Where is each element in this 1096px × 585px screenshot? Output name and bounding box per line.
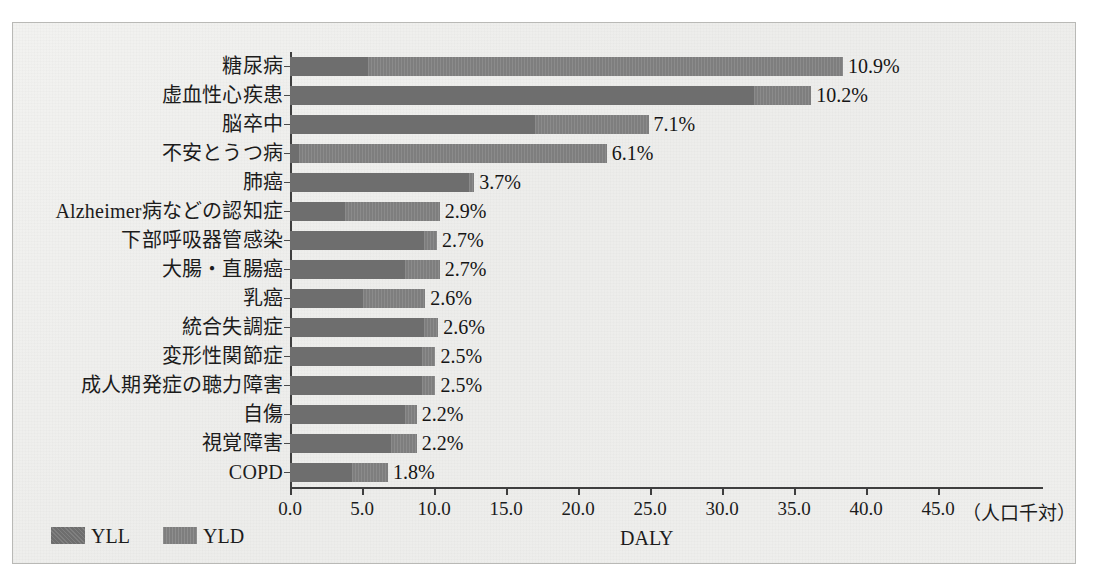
bar-segment-yld: [424, 318, 438, 337]
x-axis-tick: [722, 488, 724, 495]
legend-label: YLD: [203, 525, 244, 548]
category-label: 不安とうつ病: [162, 139, 283, 168]
bar-segment-yld: [391, 434, 417, 453]
bar-value-label: 2.5%: [440, 342, 482, 371]
bar-segment-yll: [290, 289, 363, 308]
x-axis-tick: [866, 488, 868, 495]
bar-value-label: 1.8%: [393, 458, 435, 487]
bar-value-label: 2.2%: [422, 400, 464, 429]
category-label: 統合失調症: [182, 313, 283, 342]
bar-value-label: 2.6%: [443, 313, 485, 342]
x-axis-tick-label: 40.0: [836, 498, 896, 520]
stacked-bar: [290, 376, 435, 395]
bar-value-label: 2.2%: [422, 429, 464, 458]
stacked-bar: [290, 463, 388, 482]
category-label: Alzheimer病などの認知症: [55, 197, 283, 226]
stacked-bar: [290, 202, 440, 221]
stacked-bar: [290, 57, 843, 76]
x-axis-tick: [578, 488, 580, 495]
bar-segment-yld: [368, 57, 843, 76]
legend-swatch-yll: [51, 527, 85, 544]
stacked-bar: [290, 115, 649, 134]
x-axis-tick-label: 30.0: [692, 498, 752, 520]
x-axis-tick-label: 25.0: [620, 498, 680, 520]
x-axis-tick: [650, 488, 652, 495]
legend-swatch-yld: [163, 527, 197, 544]
category-label: 成人期発症の聴力障害: [81, 371, 283, 400]
x-axis-tick: [290, 488, 292, 495]
chart-row: COPD1.8%: [13, 458, 1077, 487]
legend-item-yll[interactable]: YLL: [51, 525, 161, 549]
x-axis-tick-label: 45.0: [908, 498, 968, 520]
category-label: 脳卒中: [222, 110, 283, 139]
category-label: 下部呼吸器管感染: [121, 226, 283, 255]
bar-segment-yll: [290, 202, 345, 221]
bar-segment-yld: [363, 289, 425, 308]
bar-segment-yld: [424, 231, 437, 250]
x-axis-tick: [434, 488, 436, 495]
bar-segment-yld: [405, 405, 417, 424]
legend-item-yld[interactable]: YLD: [163, 525, 273, 549]
stacked-bar: [290, 347, 435, 366]
category-label: 糖尿病: [222, 52, 283, 81]
bar-segment-yll: [290, 57, 368, 76]
chart-row: 変形性関節症2.5%: [13, 342, 1077, 371]
stacked-bar: [290, 144, 607, 163]
chart-plot-area: 糖尿病10.9%虚血性心疾患10.2%脳卒中7.1%不安とうつ病6.1%肺癌3.…: [13, 23, 1077, 565]
bar-segment-yld: [422, 376, 435, 395]
stacked-bar: [290, 86, 811, 105]
bar-segment-yll: [290, 376, 422, 395]
bar-segment-yll: [290, 463, 352, 482]
chart-row: 統合失調症2.6%: [13, 313, 1077, 342]
stacked-bar: [290, 260, 440, 279]
category-label: 視覚障害: [202, 429, 283, 458]
x-axis-tick-label: 35.0: [764, 498, 824, 520]
bar-segment-yll: [290, 405, 405, 424]
category-label: 自傷: [243, 400, 283, 429]
chart-row: 下部呼吸器管感染2.7%: [13, 226, 1077, 255]
chart-row: Alzheimer病などの認知症2.9%: [13, 197, 1077, 226]
x-axis-title: DALY: [620, 527, 674, 550]
bar-value-label: 2.7%: [442, 226, 484, 255]
category-label: 変形性関節症: [162, 342, 283, 371]
x-axis-tick: [938, 488, 940, 495]
x-axis-tick: [794, 488, 796, 495]
bar-segment-yld: [405, 260, 440, 279]
chart-row: 乳癌2.6%: [13, 284, 1077, 313]
chart-row: 虚血性心疾患10.2%: [13, 81, 1077, 110]
chart-row: 大腸・直腸癌2.7%: [13, 255, 1077, 284]
chart-row: 成人期発症の聴力障害2.5%: [13, 371, 1077, 400]
x-axis-tick: [506, 488, 508, 495]
stacked-bar: [290, 318, 438, 337]
stacked-bar: [290, 231, 437, 250]
chart-row: 肺癌3.7%: [13, 168, 1077, 197]
bar-segment-yld: [299, 144, 607, 163]
bar-value-label: 2.5%: [440, 371, 482, 400]
category-label: COPD: [229, 458, 283, 487]
bar-segment-yll: [290, 173, 469, 192]
bar-value-label: 6.1%: [612, 139, 654, 168]
category-label: 乳癌: [243, 284, 283, 313]
x-axis-tick: [362, 488, 364, 495]
x-axis-tick-label: 0.0: [260, 498, 320, 520]
category-label: 肺癌: [243, 168, 283, 197]
x-axis-unit-label: （人口千対）: [962, 498, 1076, 525]
x-axis-line: [290, 487, 1043, 489]
x-axis-tick-label: 15.0: [476, 498, 536, 520]
bar-segment-yll: [290, 347, 422, 366]
chart-row: 自傷2.2%: [13, 400, 1077, 429]
stacked-bar: [290, 173, 474, 192]
bar-segment-yld: [352, 463, 388, 482]
chart-row: 不安とうつ病6.1%: [13, 139, 1077, 168]
chart-row: 視覚障害2.2%: [13, 429, 1077, 458]
bar-segment-yll: [290, 318, 424, 337]
bar-segment-yld: [535, 115, 649, 134]
category-label: 虚血性心疾患: [162, 81, 283, 110]
bar-value-label: 2.7%: [445, 255, 487, 284]
bar-value-label: 2.9%: [445, 197, 487, 226]
chart-figure-frame: 糖尿病10.9%虚血性心疾患10.2%脳卒中7.1%不安とうつ病6.1%肺癌3.…: [12, 22, 1076, 564]
chart-row: 糖尿病10.9%: [13, 52, 1077, 81]
bar-segment-yld: [345, 202, 440, 221]
bar-segment-yll: [290, 231, 424, 250]
legend-label: YLL: [91, 525, 130, 548]
